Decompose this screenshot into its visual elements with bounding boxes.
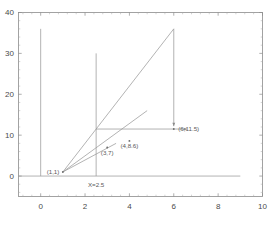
axis-tick-labels: 0246810010203040 bbox=[5, 8, 267, 211]
ray-mid-to-4p8-16 bbox=[63, 111, 147, 172]
point-label-11: (1,1) bbox=[47, 168, 60, 175]
x-tick-label: 10 bbox=[258, 202, 267, 211]
point-label-6115: (6,11.5) bbox=[178, 125, 199, 132]
y-tick-label: 10 bbox=[5, 131, 14, 140]
data-series bbox=[19, 29, 241, 176]
y-tick-label: 20 bbox=[5, 90, 14, 99]
plot-figure: 0246810010203040 (1,1)(3,7)(4,8.6)(6,11.… bbox=[0, 0, 271, 226]
point-marker bbox=[62, 171, 64, 173]
data-point-markers bbox=[62, 128, 175, 173]
data-point-labels: (1,1)(3,7)(4,8.6)(6,11.5) bbox=[47, 125, 200, 175]
y-tick-label: 0 bbox=[10, 172, 15, 181]
x-equals-2p5-label: X=2.5 bbox=[88, 181, 105, 188]
x-tick-label: 2 bbox=[83, 202, 88, 211]
plot-canvas: 0246810010203040 (1,1)(3,7)(4,8.6)(6,11.… bbox=[0, 0, 271, 226]
ray-steep-to-6-36 bbox=[63, 29, 174, 172]
point-label-37: (3,7) bbox=[101, 149, 114, 156]
y-tick-label: 30 bbox=[5, 49, 14, 58]
x-tick-label: 6 bbox=[172, 202, 177, 211]
x-tick-label: 0 bbox=[38, 202, 43, 211]
vertical-arrow-down-at-x6-head bbox=[172, 123, 175, 126]
y-tick-label: 40 bbox=[5, 8, 14, 17]
chart-annotations: X=2.5 bbox=[88, 181, 105, 188]
x-tick-label: 8 bbox=[216, 202, 221, 211]
point-marker bbox=[173, 128, 175, 130]
x-tick-label: 4 bbox=[127, 202, 132, 211]
point-label-486: (4,8.6) bbox=[120, 142, 138, 149]
